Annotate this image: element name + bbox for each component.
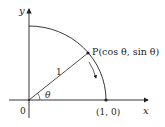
unit-point-label: (1, 0): [96, 107, 120, 117]
point-p-label: P(cos θ, sin θ): [92, 46, 159, 57]
unit-arc: [29, 26, 106, 100]
x-axis-label: x: [143, 105, 149, 116]
angle-label: θ: [45, 90, 51, 100]
unit-circle-diagram: y x 0 (1, 0) 1 θ P(cos θ, sin θ): [0, 0, 165, 127]
y-axis-label: y: [18, 5, 25, 16]
origin-point: [28, 99, 30, 101]
radius-label: 1: [56, 67, 62, 77]
direction-arrow: [89, 62, 96, 78]
origin-label: 0: [20, 106, 26, 116]
point-p: [86, 51, 89, 54]
angle-arc: [38, 93, 41, 100]
point-1-0: [104, 98, 107, 101]
